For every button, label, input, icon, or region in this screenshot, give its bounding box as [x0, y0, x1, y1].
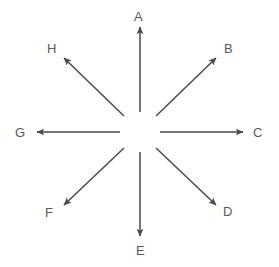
- direction-label-f: F: [45, 206, 53, 219]
- direction-label-d: D: [223, 205, 233, 218]
- arrow-b: [156, 58, 216, 116]
- arrow-d: [156, 148, 216, 205]
- diagram-canvas: A B C D E F G H: [0, 0, 279, 267]
- direction-label-c: C: [253, 126, 263, 139]
- direction-label-b: B: [224, 42, 233, 55]
- direction-label-h: H: [47, 42, 57, 55]
- direction-label-g: G: [15, 126, 25, 139]
- eight-direction-arrow-svg: [0, 0, 279, 267]
- arrow-f: [64, 148, 124, 205]
- direction-label-a: A: [134, 10, 143, 23]
- arrow-h: [64, 58, 124, 116]
- direction-label-e: E: [136, 244, 145, 257]
